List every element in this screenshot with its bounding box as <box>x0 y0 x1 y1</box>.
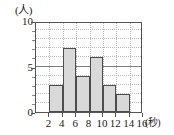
bar <box>63 48 76 112</box>
y-axis-unit-label: (人) <box>15 4 32 16</box>
y-axis-tick-label: 10 <box>14 16 33 27</box>
y-axis-tick-mark <box>31 113 35 114</box>
bar-series <box>36 23 141 112</box>
bar <box>90 57 103 112</box>
bar <box>103 85 116 112</box>
histogram-figure: (人) 0510 246810121416 (秒) <box>0 0 174 135</box>
bar <box>116 94 129 112</box>
plot-area <box>35 22 142 113</box>
bar <box>76 76 89 112</box>
y-axis-tick-label: 0 <box>14 107 33 118</box>
x-axis-unit-label: (秒) <box>145 117 160 129</box>
y-axis-tick-label: 5 <box>14 62 33 73</box>
bar <box>49 85 62 112</box>
